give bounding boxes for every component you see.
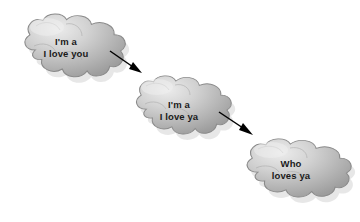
cloud-3-highlight <box>254 142 288 158</box>
cloud-node-1 <box>25 14 129 83</box>
cloud-1-highlight <box>30 18 64 36</box>
cloud-node-3 <box>247 139 355 203</box>
cloud-2-highlight <box>141 79 173 95</box>
diagram-svg <box>0 0 360 222</box>
arrow-1-head <box>129 62 142 73</box>
diagram-canvas: I'm a I love you I'm a I love ya Who lov… <box>0 0 360 222</box>
cloud-node-2 <box>137 76 236 140</box>
arrow-2-head <box>239 123 253 135</box>
